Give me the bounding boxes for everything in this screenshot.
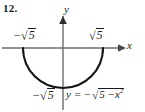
equals-sign: =: [74, 88, 81, 100]
radical-sign: √: [92, 90, 98, 101]
radical-expression: −√5: [12, 28, 36, 41]
problem-number-label: 12.: [3, 3, 17, 14]
minus-sign: −: [84, 88, 91, 100]
radicand-value: 5: [96, 28, 104, 41]
y-tick-label-negative-sqrt5: −√5: [31, 88, 55, 101]
x-tick-label-negative-sqrt5: −√5: [12, 28, 36, 41]
minus-sign: −: [13, 28, 21, 42]
y-axis-arrowhead: [59, 16, 67, 24]
radical-expression: −√5: [31, 88, 55, 101]
radical-sign: √: [21, 30, 28, 42]
radical-sign: √: [89, 30, 96, 42]
radicand-constant: 5 −: [99, 88, 115, 100]
x-axis-arrowhead: [118, 44, 126, 52]
minus-sign: −: [32, 88, 40, 102]
figure-container: 12. y x −√5 √5 −√5 y = −√5 −x2: [0, 0, 145, 112]
x-axis-label: x: [127, 40, 132, 51]
y-axis-label: y: [64, 4, 69, 15]
exponent: 2: [120, 87, 123, 94]
radical-expression: √5 −x2: [91, 88, 124, 100]
radicand-value: 5: [47, 88, 55, 101]
radical-sign: √: [40, 90, 47, 102]
radicand-value: 5: [28, 28, 36, 41]
radicand-expression: 5 −x2: [98, 88, 124, 100]
equation-lhs: y: [66, 88, 71, 100]
x-tick-label-sqrt5: √5: [88, 28, 104, 41]
radical-expression: √5: [88, 28, 104, 41]
curve-equation-label: y = −√5 −x2: [66, 88, 124, 100]
